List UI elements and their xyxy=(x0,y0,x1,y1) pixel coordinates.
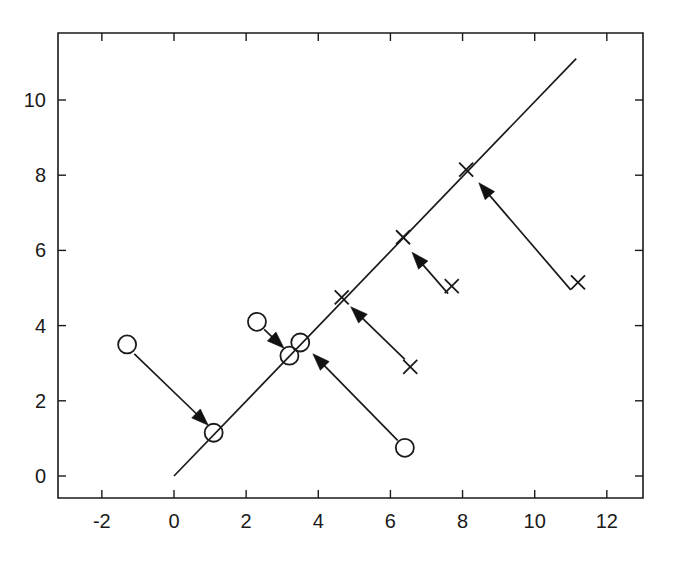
y-tick-label: 6 xyxy=(35,239,46,261)
chart-figure: -2024681012 0246810 xyxy=(0,0,679,561)
x-tick-label: 4 xyxy=(313,510,324,532)
x-tick-label: -2 xyxy=(93,510,111,532)
y-tick-label: 10 xyxy=(24,89,46,111)
x-tick-label: 6 xyxy=(385,510,396,532)
x-tick-label: 12 xyxy=(596,510,618,532)
x-tick-label: 8 xyxy=(457,510,468,532)
x-tick-label: 0 xyxy=(168,510,179,532)
x-tick-label: 2 xyxy=(241,510,252,532)
x-tick-label: 10 xyxy=(524,510,546,532)
y-tick-label: 2 xyxy=(35,390,46,412)
scatter-plot-svg: -2024681012 0246810 xyxy=(0,0,679,561)
y-tick-label: 4 xyxy=(35,315,46,337)
y-tick-label: 8 xyxy=(35,164,46,186)
y-tick-label: 0 xyxy=(35,465,46,487)
